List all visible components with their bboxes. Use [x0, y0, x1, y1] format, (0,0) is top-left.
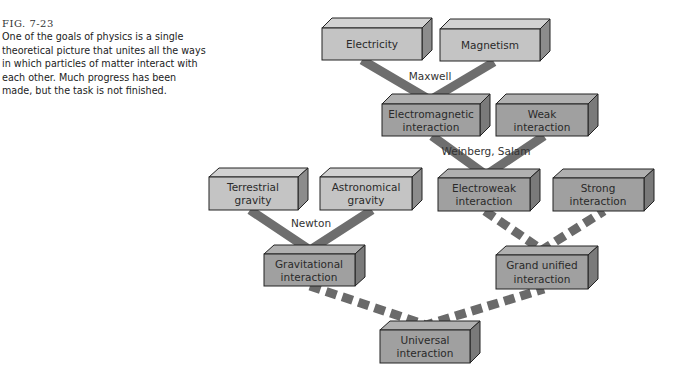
- box-label-line1: Terrestrial: [226, 181, 279, 193]
- box-label-line1: Strong: [581, 182, 616, 194]
- box-label-line1: Universal: [400, 334, 449, 346]
- box-strong-interaction: Strong interaction: [553, 169, 654, 211]
- box-electricity: Electricity: [322, 18, 432, 60]
- box-gravitational-interaction: Gravitational interaction: [264, 245, 365, 286]
- box-label: Magnetism: [461, 39, 519, 51]
- box-label-line2: interaction: [397, 347, 454, 359]
- box-label-line1: Electromagnetic: [388, 108, 474, 120]
- box-label-line2: interaction: [514, 273, 571, 285]
- box-label-line2: gravity: [348, 194, 385, 206]
- box-label-line2: interaction: [281, 271, 338, 283]
- box-terrestrial-gravity: Terrestrial gravity: [209, 168, 308, 210]
- box-label-line2: interaction: [403, 121, 460, 133]
- box-universal-interaction: Universal interaction: [380, 321, 480, 363]
- box-label-line1: Astronomical: [332, 181, 401, 193]
- label-maxwell: Maxwell: [409, 70, 452, 82]
- connector-gravitational-grand-unified: [310, 286, 544, 325]
- connector-newton: [250, 210, 372, 250]
- box-label-line1: Grand unified: [506, 259, 578, 271]
- connector-electroweak-strong: [485, 211, 604, 250]
- box-label-line1: Gravitational: [275, 258, 343, 270]
- box-label-line1: Weak: [528, 108, 558, 120]
- box-label: Electricity: [346, 38, 398, 50]
- box-astronomical-gravity: Astronomical gravity: [320, 168, 422, 210]
- box-label-line2: interaction: [570, 195, 627, 207]
- box-label-line2: interaction: [514, 121, 571, 133]
- unification-diagram: Electricity Magnetism Maxwell Electromag…: [0, 0, 690, 380]
- box-label-line2: interaction: [456, 195, 513, 207]
- box-grand-unified-interaction: Grand unified interaction: [496, 246, 598, 289]
- box-label-line1: Electroweak: [452, 182, 517, 194]
- box-electroweak-interaction: Electroweak interaction: [438, 169, 540, 211]
- label-newton: Newton: [291, 217, 331, 229]
- box-label-line2: gravity: [235, 194, 272, 206]
- box-weak-interaction: Weak interaction: [496, 94, 598, 136]
- label-weinberg-salam: Weinberg, Salam: [441, 145, 530, 157]
- box-electromagnetic-interaction: Electromagnetic interaction: [382, 94, 490, 136]
- box-magnetism: Magnetism: [440, 19, 550, 61]
